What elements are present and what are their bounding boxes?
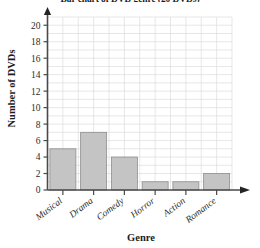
y-tick-label: 12 [31, 87, 41, 97]
x-tick-label-musical: Musical [33, 195, 65, 222]
x-axis-ticks: MusicalDramaComedyHorrorActionRomance [33, 190, 218, 225]
bar-horror [142, 182, 168, 190]
y-tick-label: 6 [36, 136, 41, 146]
x-tick-label-drama: Drama [67, 195, 96, 220]
bar-drama [81, 132, 107, 190]
y-tick-label: 10 [31, 103, 41, 113]
bar-action [173, 182, 199, 190]
y-tick-label: 2 [36, 169, 41, 179]
plot-area: 02468101214161820 MusicalDramaComedyHorr… [0, 0, 260, 248]
bar-musical [50, 149, 76, 190]
y-tick-label: 20 [31, 21, 41, 31]
arrow-up-icon [44, 7, 51, 15]
bar-chart-figure: Bar chart of DVD genre (20 DVDs) Number … [0, 0, 260, 248]
y-tick-label: 18 [31, 37, 41, 47]
x-tick-label-horror: Horror [128, 195, 157, 220]
bar-comedy [111, 157, 137, 190]
x-tick-label-comedy: Comedy [95, 195, 127, 222]
y-tick-label: 8 [36, 120, 41, 130]
x-tick-label-action: Action [160, 195, 187, 219]
y-tick-label: 4 [36, 152, 41, 162]
arrow-right-icon [240, 186, 250, 193]
x-tick-label-romance: Romance [183, 196, 218, 226]
y-tick-label: 16 [31, 54, 41, 64]
y-axis-ticks: 02468101214161820 [31, 21, 48, 196]
y-tick-label: 14 [31, 70, 41, 80]
bar-romance [204, 174, 230, 190]
y-tick-label: 0 [36, 185, 41, 195]
